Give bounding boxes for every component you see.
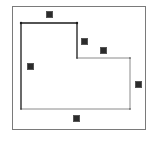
vertex (76, 57, 78, 59)
label-bottom (73, 115, 80, 122)
label-top (46, 11, 53, 18)
vertex (129, 108, 131, 110)
label-left (27, 63, 34, 70)
vertex (20, 22, 22, 24)
vertex (129, 57, 131, 59)
label-right (135, 81, 142, 88)
label-step-vertical (81, 38, 88, 45)
vertex (76, 22, 78, 24)
label-step-horizontal (100, 47, 107, 54)
vertex (20, 108, 22, 110)
